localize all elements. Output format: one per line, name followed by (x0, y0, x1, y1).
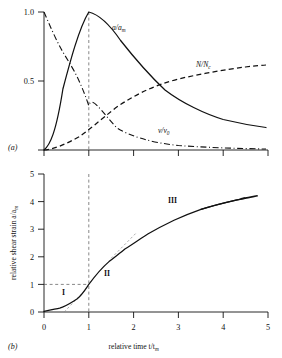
panel-b-yaxis-title: relative shear strain a/am (9, 206, 19, 280)
panel-b-xticklabel-0: 0 (42, 323, 46, 332)
figure-container: 0.5 1.0 a/am N/Nc v/v0 (a) (0, 0, 282, 358)
panel-a-label: (a) (8, 143, 18, 152)
panel-b-yticklabel-0: 0 (30, 308, 34, 317)
panel-b-xticklabel-5: 5 (266, 323, 270, 332)
curve-relative-shear-strain-tail (201, 198, 245, 209)
panel-a-yticklabel-10: 1.0 (24, 8, 34, 17)
panel-a-yticklabel-05: 0.5 (24, 77, 34, 86)
region-label-II: II (104, 269, 110, 278)
region-label-III: III (168, 196, 177, 205)
panel-b-yticklabel-1: 1 (30, 281, 34, 290)
panel-b-plot: 0 1 2 3 4 5 0 1 2 3 4 5 (0, 160, 282, 358)
panel-b: 0 1 2 3 4 5 0 1 2 3 4 5 (0, 160, 282, 358)
curve-relative-shear-strain (44, 196, 257, 312)
label-N-over-Nc: N/Nc (195, 60, 211, 70)
label-v-over-v0: v/v0 (158, 126, 170, 136)
panel-b-xaxis-title: relative time t/tm (108, 342, 158, 352)
panel-b-xticklabel-2: 2 (132, 323, 136, 332)
panel-b-yticklabel-2: 2 (30, 253, 34, 262)
panel-a-plot: 0.5 1.0 a/am N/Nc v/v0 (a) (0, 0, 282, 165)
panel-b-yticklabel-4: 4 (30, 198, 34, 207)
region-label-I: I (62, 288, 65, 297)
panel-a: 0.5 1.0 a/am N/Nc v/v0 (a) (0, 0, 282, 165)
panel-b-label: (b) (8, 342, 18, 351)
panel-b-xticklabel-4: 4 (221, 323, 225, 332)
label-a-over-am: a/am (112, 23, 126, 33)
stage-II-tangent (111, 233, 136, 258)
curve-a-over-am (44, 12, 266, 150)
panel-b-xticklabel-1: 1 (87, 323, 91, 332)
panel-b-yticklabel-3: 3 (30, 225, 34, 234)
panel-b-xticklabel-3: 3 (176, 323, 180, 332)
panel-b-yticklabel-5: 5 (30, 170, 34, 179)
